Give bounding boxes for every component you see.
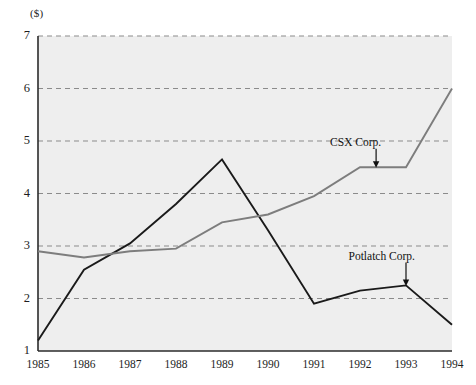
- chart-plot-area: [0, 0, 476, 385]
- y-tick-label-6: 6: [4, 81, 30, 96]
- y-tick-label-4: 4: [4, 186, 30, 201]
- y-tick-label-3: 3: [4, 238, 30, 253]
- y-axis-unit-label: ($): [30, 7, 43, 19]
- y-tick-label-7: 7: [4, 28, 30, 43]
- annotation-label-csx-corp: CSX Corp.: [330, 136, 381, 148]
- y-tick-label-5: 5: [4, 133, 30, 148]
- x-tick-label-1994: 1994: [422, 358, 476, 370]
- y-tick-label-1: 1: [4, 343, 30, 358]
- y-tick-label-2: 2: [4, 291, 30, 306]
- stock-price-line-chart: ($) 1234567 1985198619871988198919901991…: [0, 0, 476, 385]
- annotation-label-potlatch-corp: Potlatch Corp.: [349, 250, 415, 262]
